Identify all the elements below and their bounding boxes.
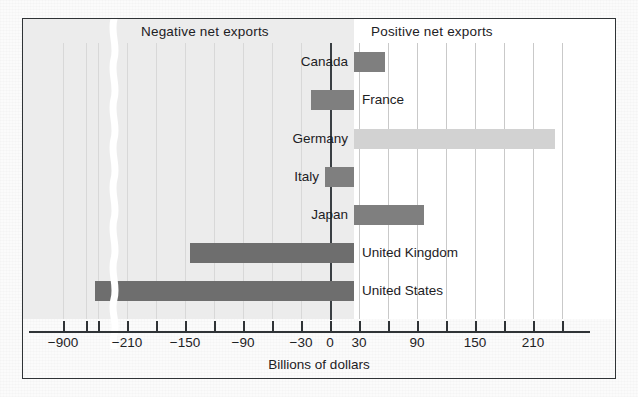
- positive-region-background: [354, 19, 615, 319]
- bar-label-japan: Japan: [272, 205, 348, 225]
- gridline: [359, 43, 360, 319]
- x-tick: [417, 321, 419, 332]
- gridline: [475, 43, 476, 319]
- x-tick: [504, 321, 506, 332]
- x-tick: [533, 321, 535, 332]
- chart-plot-area: Negative net exports Positive net export…: [23, 19, 615, 378]
- gridline: [127, 43, 128, 319]
- x-tick: [359, 321, 361, 332]
- x-tick: [127, 321, 129, 332]
- gridline: [185, 43, 186, 319]
- x-tick: [214, 321, 216, 332]
- x-tick-label: 30: [351, 335, 366, 350]
- bar-canada: [354, 52, 385, 72]
- x-tick: [243, 321, 245, 332]
- x-tick: [86, 321, 88, 332]
- x-tick: [63, 321, 65, 332]
- gridline: [562, 43, 563, 319]
- gridline: [214, 43, 215, 319]
- x-axis-line: [29, 331, 590, 333]
- x-tick-label: −150: [170, 335, 200, 350]
- x-tick-label: 0: [326, 335, 334, 350]
- bar-united-states: [95, 281, 354, 301]
- bar-japan: [354, 205, 424, 225]
- bar-label-france: France: [362, 90, 452, 110]
- gridline: [533, 43, 534, 319]
- x-tick-label: −210: [112, 335, 142, 350]
- x-tick-label: −90: [232, 335, 255, 350]
- gridline: [388, 43, 389, 319]
- gridline: [504, 43, 505, 319]
- gridline: [243, 43, 244, 319]
- gridline: [417, 43, 418, 319]
- x-tick-label: 90: [409, 335, 424, 350]
- x-axis-title: Billions of dollars: [23, 357, 615, 372]
- x-tick: [330, 321, 332, 332]
- x-tick: [272, 321, 274, 332]
- x-tick: [446, 321, 448, 332]
- negative-net-exports-label: Negative net exports: [141, 24, 269, 39]
- bar-italy: [325, 167, 354, 187]
- x-tick: [388, 321, 390, 332]
- x-tick-label: −30: [290, 335, 313, 350]
- gridline: [98, 43, 99, 319]
- gridline: [446, 43, 447, 319]
- bar-label-italy: Italy: [255, 167, 319, 187]
- x-tick: [156, 321, 158, 332]
- x-tick-label: 150: [464, 335, 487, 350]
- figure-page: Negative net exports Positive net export…: [0, 0, 638, 397]
- gridline: [156, 43, 157, 319]
- x-tick: [301, 321, 303, 332]
- positive-net-exports-label: Positive net exports: [371, 24, 493, 39]
- x-tick-label: 210: [522, 335, 545, 350]
- x-tick: [98, 321, 100, 332]
- bar-united-kingdom: [190, 243, 354, 263]
- bar-label-united-states: United States: [362, 281, 502, 301]
- bar-label-germany: Germany: [258, 129, 348, 149]
- x-tick: [185, 321, 187, 332]
- bar-label-canada: Canada: [266, 52, 348, 72]
- bar-france: [311, 90, 354, 110]
- gridline: [86, 43, 87, 319]
- x-tick-label: −900: [48, 335, 78, 350]
- bar-germany: [354, 129, 555, 149]
- x-tick: [475, 321, 477, 332]
- x-tick: [562, 321, 564, 332]
- gridline: [63, 43, 64, 319]
- bar-label-united-kingdom: United Kingdom: [362, 243, 512, 263]
